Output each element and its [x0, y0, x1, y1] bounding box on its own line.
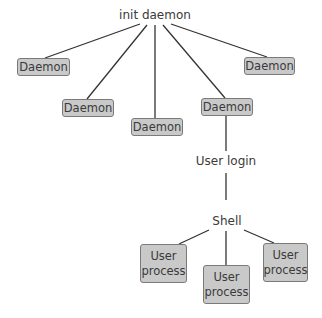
- daemon-node: Daemon: [62, 99, 114, 117]
- daemon-node: Daemon: [17, 58, 70, 76]
- edge-init-to-daemon-4: [163, 25, 225, 98]
- edge-init-to-daemon-2: [87, 25, 147, 99]
- daemon-node-label: Daemon: [245, 59, 294, 74]
- daemon-node: Daemon: [131, 118, 183, 136]
- edge-shell-to-process-1: [179, 230, 209, 244]
- daemon-node-parent-of-login: Daemon: [201, 98, 253, 116]
- user-process-node: User process: [263, 243, 308, 282]
- process-tree-diagram: init daemon Daemon Daemon Daemon Daemon …: [0, 0, 322, 318]
- edge-init-to-daemon-1: [45, 24, 140, 58]
- user-process-label: User process: [204, 270, 248, 300]
- shell-label: Shell: [212, 214, 241, 228]
- daemon-node-label: Daemon: [133, 120, 182, 135]
- user-process-label: User process: [141, 249, 185, 279]
- user-process-label: User process: [263, 248, 307, 278]
- daemon-node-label: Daemon: [64, 101, 113, 116]
- user-process-node: User process: [203, 265, 250, 304]
- daemon-node: Daemon: [244, 57, 295, 75]
- edge-shell-to-process-3: [244, 230, 274, 243]
- init-daemon-label: init daemon: [119, 8, 191, 22]
- user-login-label: User login: [196, 154, 256, 168]
- user-process-node: User process: [140, 244, 187, 283]
- daemon-node-label: Daemon: [203, 100, 252, 115]
- daemon-node-label: Daemon: [19, 60, 68, 75]
